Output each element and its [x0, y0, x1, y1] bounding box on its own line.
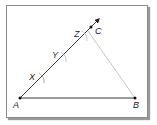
arc-mark-z: [82, 31, 87, 41]
label-y: Y: [52, 50, 59, 60]
label-x: X: [28, 72, 36, 82]
segment-zb: [88, 31, 135, 98]
arc-mark-y: [61, 52, 66, 62]
triangle-construction-diagram: A B C X Y Z: [0, 0, 157, 125]
label-z: Z: [73, 29, 80, 39]
label-c: C: [95, 26, 102, 36]
label-a: A: [12, 100, 19, 110]
point-c: [90, 26, 93, 29]
ray-from-a: [20, 20, 98, 98]
label-b: B: [133, 100, 139, 110]
